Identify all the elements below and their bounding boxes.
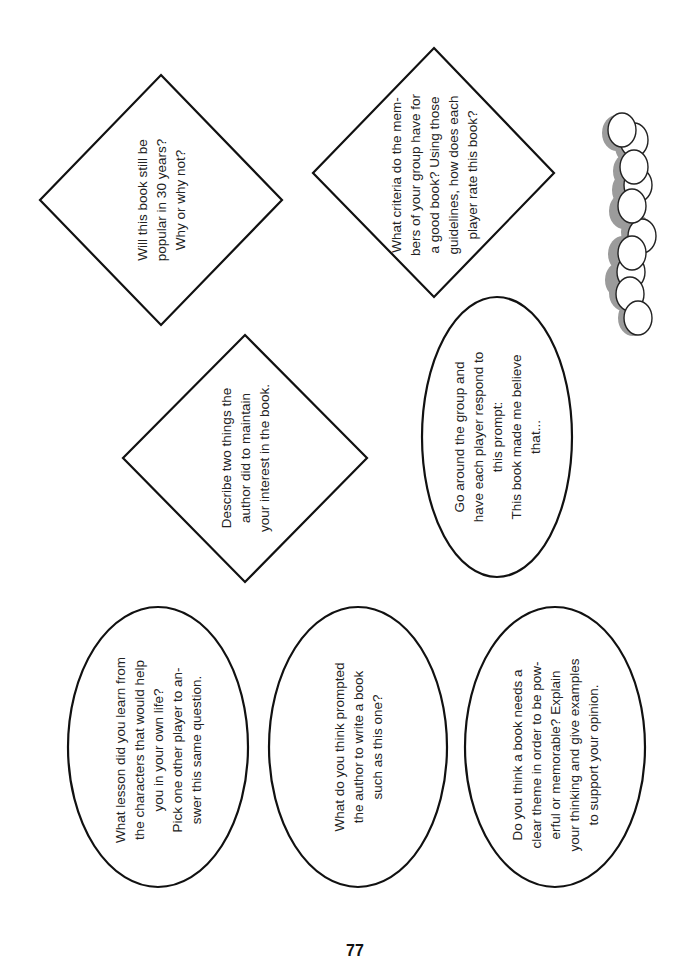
diamond-card-group-criteria-text: What criteria do the mem- bers of your g…: [387, 40, 482, 310]
chip-stack-icon: [602, 113, 656, 336]
oval-card-clear-theme-text: Do you think a book needs a clear theme …: [508, 620, 603, 890]
diamond-card-popular-30-years-text: Will this book still be popular in 30 ye…: [133, 70, 190, 330]
oval-card-what-prompted-author-text: What do you think prompted the author to…: [330, 617, 387, 877]
oval-card-lesson-from-characters-text: What lesson did you learn from the chara…: [111, 620, 206, 880]
diamond-card-maintain-interest-text: Describe two things the author did to ma…: [217, 328, 274, 588]
page-number: 77: [340, 944, 370, 958]
oval-card-book-made-me-believe-text: Go around the group and have each player…: [450, 307, 545, 567]
